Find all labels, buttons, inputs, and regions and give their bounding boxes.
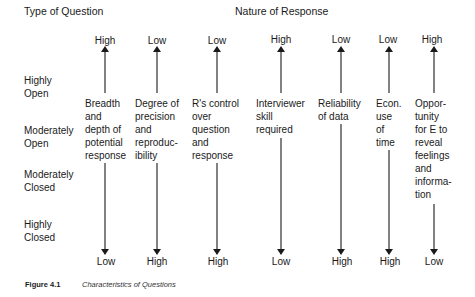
- col3-top-label: Low: [208, 35, 226, 46]
- col7-description: Oppor- tunity for E to reveal feelings a…: [415, 97, 452, 201]
- col7-bottom-label: Low: [425, 256, 443, 267]
- col3-bottom-label: High: [208, 256, 229, 267]
- col2-description: Degree of precision and reproduc- ibilit…: [135, 97, 179, 162]
- col1-bottom-label: Low: [97, 256, 115, 267]
- col6-description: Econ. use of time: [376, 97, 402, 149]
- col5-bottom-label: High: [332, 256, 353, 267]
- col7-top-label: High: [422, 34, 443, 45]
- col3-description: R's control over question and response: [192, 97, 239, 162]
- col6-top-label: Low: [379, 34, 397, 45]
- col2-bottom-label: High: [147, 256, 168, 267]
- col6-bottom-label: High: [380, 256, 401, 267]
- col5-top-label: Low: [332, 34, 350, 45]
- col1-description: Breadth and depth of potential response: [85, 97, 126, 162]
- figure-title: Characteristics of Questions: [82, 280, 176, 289]
- col1-top-label: High: [95, 35, 116, 46]
- col5-description: Reliability of data: [318, 97, 361, 123]
- col2-top-label: Low: [148, 35, 166, 46]
- col4-bottom-label: Low: [272, 256, 290, 267]
- col4-description: Interviewer skill required: [256, 97, 305, 136]
- col4-top-label: High: [271, 34, 292, 45]
- figure-number: Figure 4.1: [25, 280, 60, 289]
